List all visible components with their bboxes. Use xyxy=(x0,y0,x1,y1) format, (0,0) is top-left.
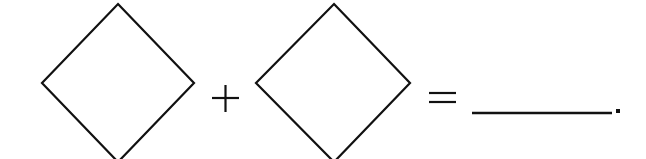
operand-diamond-1[interactable] xyxy=(42,4,194,159)
equals-sign xyxy=(429,93,456,102)
period xyxy=(616,109,620,113)
plus-sign xyxy=(212,85,239,112)
operand-diamond-2[interactable] xyxy=(256,4,410,159)
math-expression xyxy=(0,0,646,159)
